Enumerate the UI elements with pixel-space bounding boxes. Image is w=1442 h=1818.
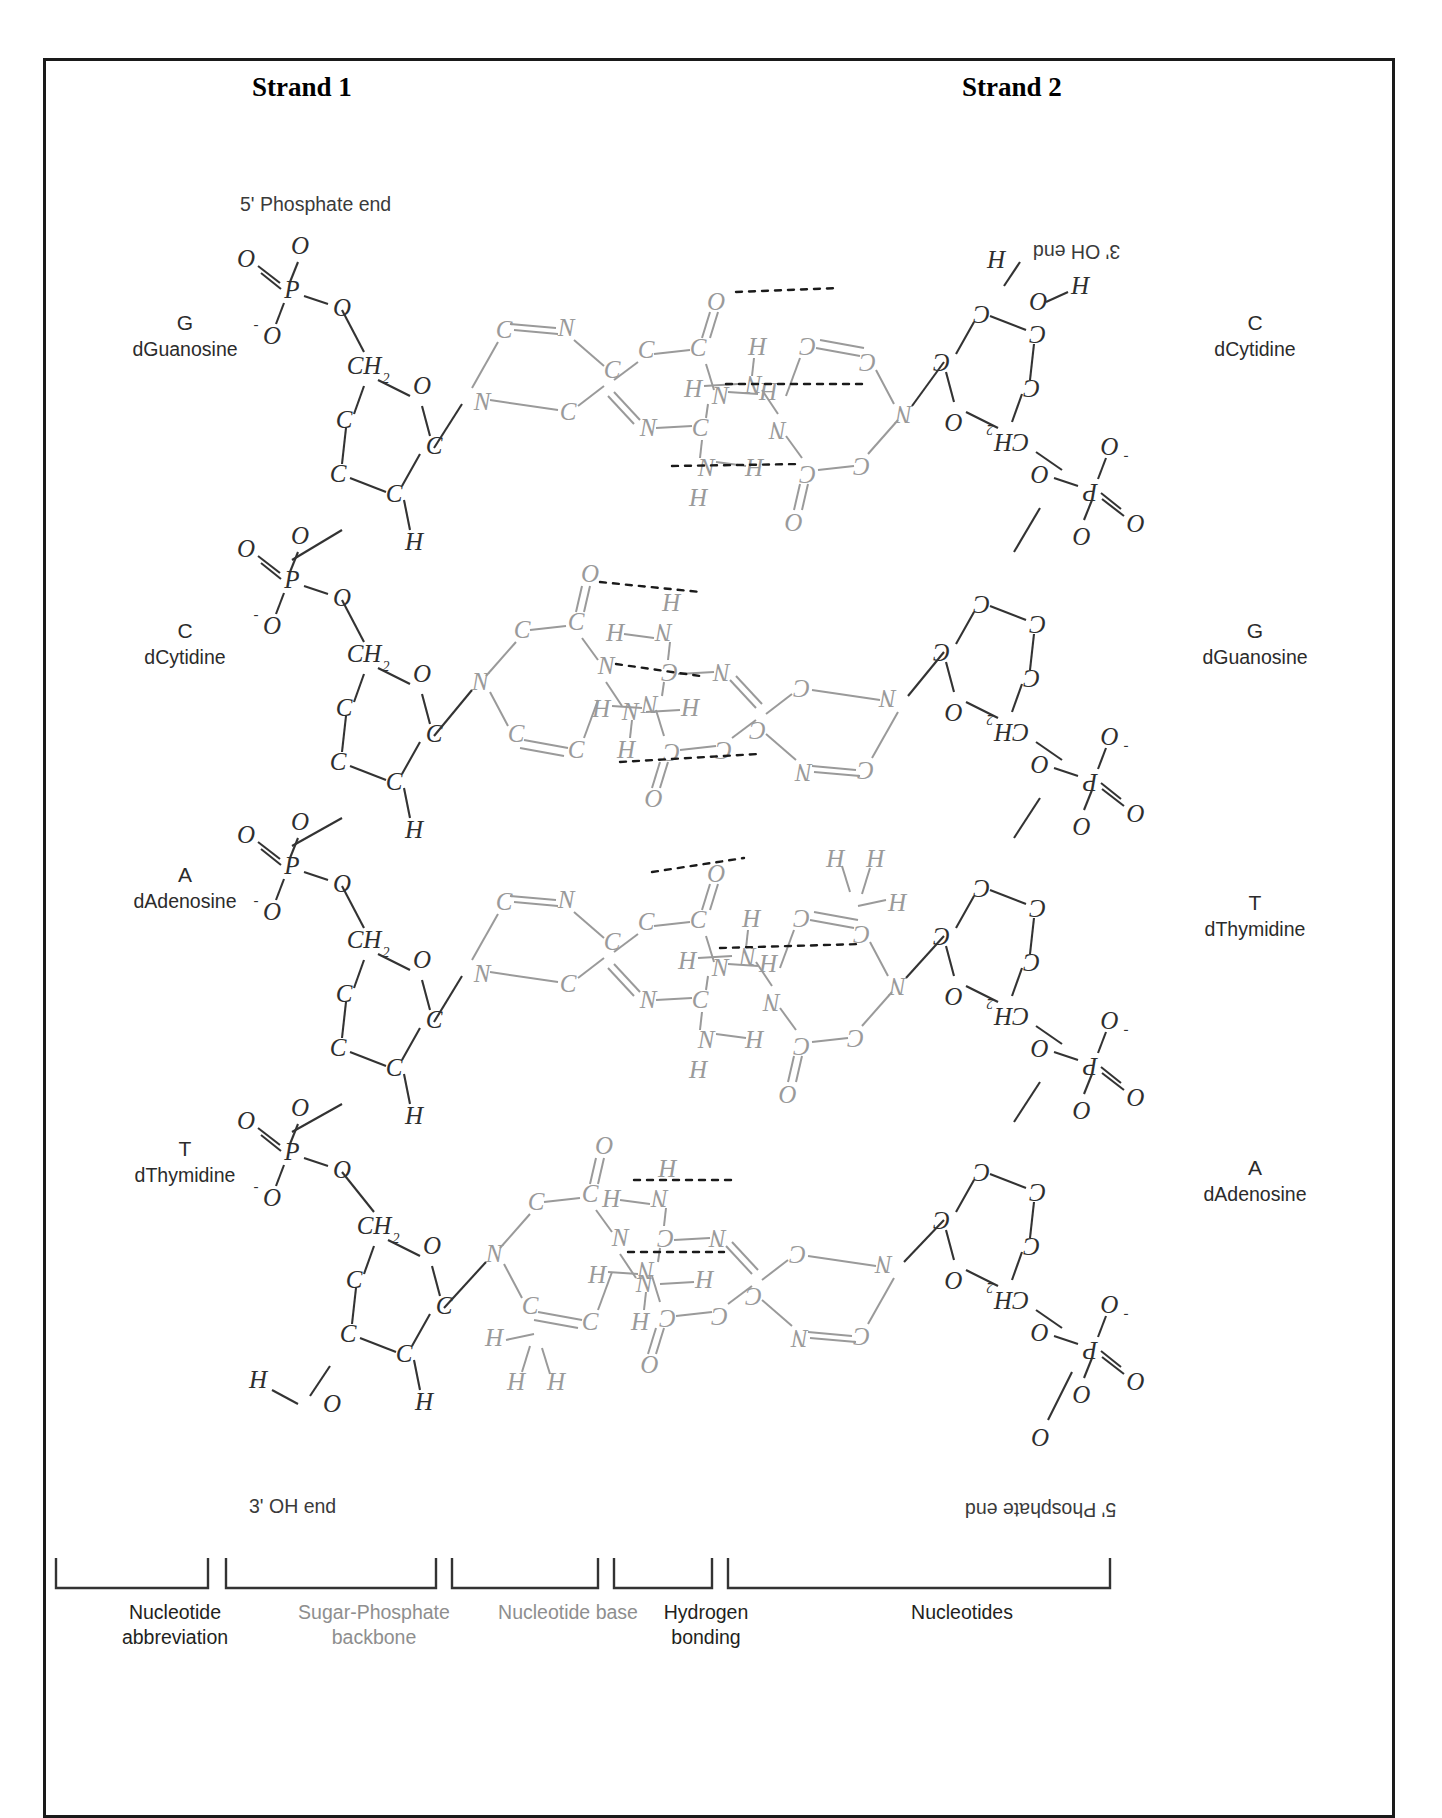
svg-text:H: H	[887, 889, 908, 916]
strand2-nucleotide-2-sugar	[933, 591, 1046, 746]
bond	[342, 600, 364, 642]
glycosidic-bond	[434, 690, 472, 736]
strand2-base-adenine-4	[587, 1155, 894, 1378]
strand1-nucleotide-1-sugar	[330, 352, 443, 555]
strand1-3prime-OH: O H	[248, 1366, 341, 1417]
strand2-nucleotide-4-sugar	[933, 1159, 1046, 1314]
bond	[1014, 508, 1040, 552]
glycosidic-bond	[434, 404, 462, 448]
strand2-nucleotide-2-phosphate	[1031, 723, 1145, 840]
bracket-label-nucleotide-base: Nucleotide base	[485, 1600, 651, 1625]
strand1-nucleotide-3-phosphate	[237, 808, 351, 925]
strand2-3prime-OH: H O H	[986, 246, 1091, 315]
bracket-label-sugar-phosphate-backbone: Sugar-Phosphate backbone	[259, 1600, 489, 1651]
svg-text:H: H	[825, 845, 846, 872]
strand2-nucleotide-3-sugar	[933, 875, 1046, 1030]
svg-text:H: H	[248, 1366, 269, 1393]
svg-text:H: H	[1070, 272, 1091, 299]
bond	[1014, 798, 1040, 838]
svg-text:O: O	[323, 1390, 341, 1417]
glycosidic-bond	[444, 1262, 486, 1308]
svg-text:H: H	[484, 1324, 505, 1351]
strand1-base-adenine-3	[472, 860, 779, 1083]
strand1-nucleotide-4-sugar	[340, 1212, 453, 1415]
svg-text:H: H	[546, 1368, 567, 1395]
glycosidic-bond	[912, 362, 944, 406]
glycosidic-bond	[904, 1220, 944, 1262]
svg-text:O: O	[1029, 288, 1047, 315]
strand2-5prime-phosphate-terminus: O	[1031, 1372, 1072, 1451]
bracket-label-nucleotides: Nucleotides	[771, 1600, 1153, 1625]
bond	[1014, 1082, 1040, 1122]
bond	[342, 886, 364, 928]
glycosidic-bond	[908, 652, 944, 696]
strand2-base-cytosine-1	[683, 333, 913, 536]
bond	[342, 310, 364, 352]
strand2-nucleotide-1-phosphate	[1031, 433, 1145, 550]
strand1-nucleotide-1-phosphate	[237, 232, 351, 349]
strand1-nucleotide-2-phosphate	[237, 522, 351, 639]
strand1-nucleotide-2-sugar	[330, 640, 443, 843]
strand1-base-guanine-1	[472, 288, 779, 511]
svg-text:H: H	[506, 1368, 527, 1395]
svg-text:O: O	[1031, 1424, 1049, 1451]
strand2-nucleotide-3-phosphate	[1031, 1007, 1145, 1124]
glycosidic-bond	[434, 976, 462, 1022]
strand1-nucleotide-3-sugar	[330, 926, 443, 1129]
glycosidic-bond	[906, 936, 944, 978]
strand2-nucleotide-4-phosphate	[1031, 1291, 1145, 1408]
strand1-nucleotide-4-phosphate	[237, 1094, 351, 1211]
bracket-label-nucleotide-abbreviation: Nucleotide abbreviation	[95, 1600, 255, 1651]
bond	[342, 1172, 374, 1212]
svg-text:H: H	[865, 845, 886, 872]
bracket-label-hydrogen-bonding: Hydrogen bonding	[647, 1600, 765, 1651]
strand2-nucleotide-1-sugar	[933, 301, 1046, 456]
svg-text:H: H	[986, 246, 1007, 273]
